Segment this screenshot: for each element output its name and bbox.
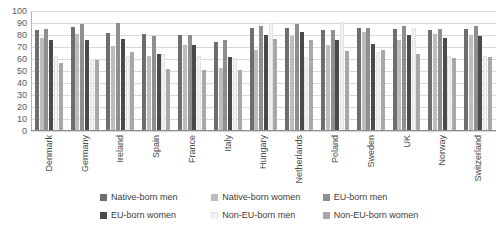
bar (259, 26, 263, 130)
bar (116, 23, 120, 130)
bar (219, 68, 223, 130)
x-axis-category-label: Ireland (116, 135, 125, 163)
bar (202, 70, 206, 130)
y-axis-tick-label: 70 (17, 43, 27, 52)
bar (290, 36, 294, 130)
bar-group (389, 11, 425, 130)
bar (340, 22, 344, 130)
bar (71, 27, 75, 130)
legend-label: EU-born men (334, 193, 388, 202)
y-axis-tick-label: 60 (17, 55, 27, 64)
x-axis-category-label: Poland (331, 135, 340, 163)
bar (214, 42, 218, 130)
bar (321, 30, 325, 130)
bar (197, 56, 201, 130)
bar (80, 24, 84, 130)
bar-group (424, 11, 460, 130)
bar (478, 36, 482, 130)
legend-item[interactable]: Non-EU-born women (323, 211, 430, 220)
bar-group (138, 11, 174, 130)
bar-group (246, 11, 282, 130)
bar (75, 34, 79, 130)
x-axis-labels: DenmarkGermanyIrelandSpainFranceItalyHun… (31, 133, 496, 189)
bar (121, 39, 125, 130)
y-axis: 1009080706050403020100 (0, 0, 30, 140)
bar (142, 34, 146, 130)
bar (254, 50, 258, 130)
legend-item[interactable]: Non-EU-born men (211, 211, 318, 220)
bar (54, 56, 58, 130)
y-axis-tick-label: 90 (17, 19, 27, 28)
legend-swatch-icon (323, 212, 330, 219)
x-axis-category: Hungary (246, 133, 282, 189)
bar (157, 54, 161, 130)
bar (130, 52, 134, 130)
legend-item[interactable]: EU-born women (100, 211, 207, 220)
x-axis-category-label: Spain (152, 135, 161, 158)
bar-group (353, 11, 389, 130)
bar (166, 69, 170, 130)
bar (152, 36, 156, 130)
bar (326, 45, 330, 130)
y-axis-tick-label: 40 (17, 79, 27, 88)
bar (183, 45, 187, 130)
bar (49, 40, 53, 130)
bar (111, 46, 115, 130)
bar (407, 35, 411, 130)
bar (250, 28, 254, 130)
bar-group (67, 11, 103, 130)
x-axis-category: Germany (67, 133, 103, 189)
bar (376, 52, 380, 130)
gridline (31, 131, 496, 132)
bar (331, 30, 335, 130)
legend-item[interactable]: EU-born men (323, 193, 430, 202)
bar (428, 30, 432, 130)
x-axis-category: Norway (424, 133, 460, 189)
bar (188, 35, 192, 130)
y-axis-tick-label: 10 (17, 115, 27, 124)
y-axis-tick-label: 20 (17, 103, 27, 112)
x-axis-category-label: Switzerland (474, 135, 483, 182)
legend-label: Native-born women (222, 193, 300, 202)
bar (488, 57, 492, 130)
x-axis-category-label: Hungary (259, 135, 268, 169)
bar (309, 40, 313, 130)
bar (447, 56, 451, 130)
bar (90, 59, 94, 130)
x-axis-category: Poland (317, 133, 353, 189)
bar (295, 24, 299, 130)
bar (402, 26, 406, 130)
bar (371, 44, 375, 130)
legend-item[interactable]: Native-born men (100, 193, 207, 202)
bar (438, 29, 442, 130)
bar (381, 50, 385, 130)
x-axis-category: Ireland (103, 133, 139, 189)
bar (452, 58, 456, 130)
x-axis-category-label: UK (402, 135, 411, 148)
bar (223, 40, 227, 130)
bar (59, 63, 63, 130)
y-axis-tick-label: 80 (17, 31, 27, 40)
bar (228, 57, 232, 130)
plot-area: 1009080706050403020100 (0, 0, 502, 140)
bar (474, 26, 478, 130)
x-axis-category: France (174, 133, 210, 189)
bar (273, 39, 277, 130)
bar-group (460, 11, 496, 130)
bar-group (31, 11, 67, 130)
legend-label: Non-EU-born women (334, 211, 419, 220)
x-axis-category-label: Germany (80, 135, 89, 172)
x-axis-category-label: Sweden (366, 135, 375, 168)
bar (362, 32, 366, 130)
bar (233, 58, 237, 130)
bar-chart: 1009080706050403020100 DenmarkGermanyIre… (0, 0, 502, 238)
bar (345, 51, 349, 130)
bar (300, 32, 304, 130)
bar (304, 57, 308, 130)
legend-label: Non-EU-born men (222, 211, 295, 220)
legend-item[interactable]: Native-born women (211, 193, 318, 202)
y-axis-tick-label: 50 (17, 67, 27, 76)
bar (443, 38, 447, 130)
y-axis-tick-label: 0 (22, 127, 27, 136)
x-axis-category: Switzerland (460, 133, 496, 189)
